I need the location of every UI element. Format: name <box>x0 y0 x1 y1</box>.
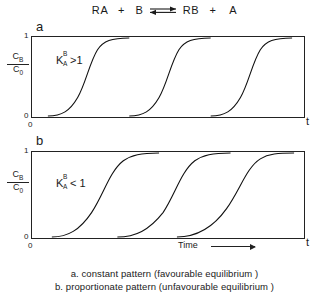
panel-a-curve-2 <box>129 38 210 116</box>
caption-line-a: a. constant pattern (favourable equilibr… <box>0 267 329 280</box>
equation-product-2: A <box>229 4 237 16</box>
panel-a-x-tick-end: t <box>306 116 309 127</box>
k-relation-b: < 1 <box>70 177 86 189</box>
reaction-equation: RA + B RB + A <box>0 4 329 18</box>
k-relation-a: >1 <box>70 54 83 66</box>
figure-root: RA + B RB + A a 1 0 0 t CB C0 <box>0 0 329 297</box>
k-symbol-b: K B A <box>56 178 67 189</box>
equation-reactant-1: RA <box>92 4 108 16</box>
panel-a-curve-1 <box>48 38 129 116</box>
panel-b-curves <box>32 152 304 238</box>
panel-b-y-axis-label: CB C0 <box>7 170 29 194</box>
y-denominator: C0 <box>7 64 29 77</box>
y-numerator: CB <box>7 170 29 182</box>
panel-a-k-annotation: K B A >1 <box>56 55 83 66</box>
figure-captions: a. constant pattern (favourable equilibr… <box>0 267 329 293</box>
equation-product-1: RB <box>183 4 199 16</box>
y-denominator: C0 <box>7 182 29 195</box>
panel-a-x-tick-origin: 0 <box>28 121 32 129</box>
panel-a-plot-area <box>31 36 305 118</box>
panel-a-y-tick-bottom: 0 <box>24 112 28 120</box>
panel-a-curves <box>32 37 304 117</box>
panel-b-y-tick-bottom: 0 <box>24 233 28 241</box>
panel-a-y-axis-label: CB C0 <box>7 52 29 76</box>
y-numerator: CB <box>7 52 29 64</box>
panel-b-plot-area <box>31 151 305 239</box>
equilibrium-double-arrow-icon <box>148 5 178 18</box>
panel-a-curve-3 <box>211 38 292 116</box>
caption-line-b: b. proportionate pattern (unfavourable e… <box>0 280 329 293</box>
panel-letter-a: a <box>36 20 43 33</box>
x-axis-label-time: Time <box>178 241 198 250</box>
panel-a-y-tick-top: 1 <box>24 32 28 40</box>
panel-b-curve-3 <box>177 153 294 237</box>
equation-reactant-2: B <box>135 4 143 16</box>
k-symbol-a: K B A <box>56 55 67 66</box>
equation-plus-1: + <box>118 4 125 16</box>
panel-b-k-annotation: K B A < 1 <box>56 178 86 189</box>
panel-letter-b: b <box>36 134 43 147</box>
equation-plus-2: + <box>209 4 216 16</box>
time-direction-arrow-icon <box>211 246 255 247</box>
panel-b-y-tick-top: 1 <box>24 147 28 155</box>
panel-b-x-tick-origin: 0 <box>28 242 32 250</box>
panel-b-x-tick-end: t <box>306 237 309 248</box>
panel-b-curve-2 <box>117 153 230 237</box>
panel-b-curve-1 <box>52 153 159 237</box>
